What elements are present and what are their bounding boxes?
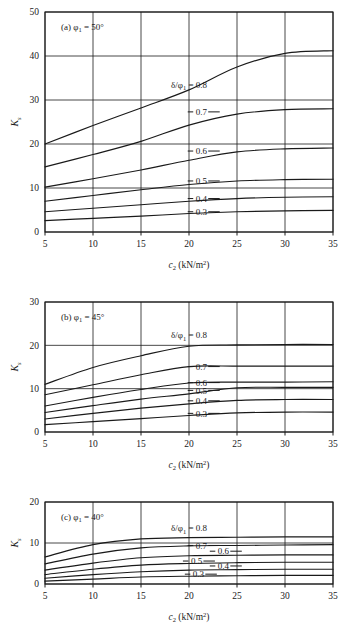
y-tick-label: 10 — [30, 538, 40, 548]
curve-label-0-8: δ/φ1 = 0.8 — [171, 523, 208, 534]
x-tick-label: 5 — [43, 239, 48, 249]
x-tick-label: 15 — [136, 591, 146, 601]
y-tick-label: 50 — [30, 7, 40, 17]
chart-svg-c: 010205101520253035Ksc2 (kN/m2)(c) φ1 = 4… — [0, 490, 345, 642]
panel-title-b: (b) φ1 = 45° — [61, 312, 105, 323]
figure-sheet: 010203040505101520253035Ksc2 (kN/m2)(a) … — [0, 0, 345, 642]
curve-label-0-8: δ/φ1 = 0.8 — [171, 330, 208, 341]
y-axis-title-c: Ks — [9, 538, 22, 549]
curve-label-0-4: 0.4 — [196, 194, 208, 204]
y-tick-label: 10 — [30, 384, 40, 394]
curve-labels-c: δ/φ1 = 0.80.70.60.50.40.3 — [171, 523, 242, 579]
x-tick-label: 25 — [232, 591, 242, 601]
x-tick-labels-c: 5101520253035 — [43, 584, 338, 601]
y-tick-label: 30 — [30, 297, 40, 307]
y-tick-labels-c: 01020 — [30, 497, 40, 589]
x-tick-labels-a: 5101520253035 — [43, 232, 338, 249]
curve-label-0-4: 0.4 — [196, 396, 208, 406]
chart-svg-b: 01020305101520253035Ksc2 (kN/m2)(b) φ1 =… — [0, 290, 345, 490]
y-axis-title-text: Ks — [9, 362, 22, 373]
y-tick-label: 40 — [30, 51, 40, 61]
y-tick-labels-a: 01020304050 — [30, 7, 40, 237]
x-axis-title-text: c2 (kN/m2) — [168, 611, 209, 624]
curve-label-0-3: 0.3 — [193, 569, 205, 579]
x-tick-label: 30 — [280, 439, 290, 449]
y-tick-label: 10 — [30, 183, 40, 193]
curve-label-0-4: 0.4 — [218, 561, 230, 571]
curve-label-0-5: 0.5 — [191, 556, 203, 566]
y-tick-label: 20 — [30, 341, 40, 351]
curve-label-0-8: δ/φ1 = 0.8 — [171, 80, 208, 91]
x-tick-label: 35 — [328, 239, 338, 249]
x-tick-label: 5 — [43, 439, 48, 449]
panel-b: 01020305101520253035Ksc2 (kN/m2)(b) φ1 =… — [0, 290, 345, 490]
y-axis-title-text: Ks — [9, 538, 22, 549]
y-tick-label: 0 — [34, 579, 39, 589]
x-tick-label: 20 — [184, 591, 194, 601]
x-axis-title-c: c2 (kN/m2) — [168, 611, 209, 624]
curve-label-0-5: 0.5 — [196, 176, 208, 186]
x-tick-label: 35 — [328, 591, 338, 601]
y-tick-label: 0 — [34, 427, 39, 437]
plot-area-b: 01020305101520253035Ksc2 (kN/m2)(b) φ1 =… — [0, 290, 345, 490]
y-axis-title-a: Ks — [9, 117, 22, 128]
curve-label-0-7: 0.7 — [196, 362, 208, 372]
x-tick-label: 10 — [88, 239, 98, 249]
x-tick-label: 15 — [136, 439, 146, 449]
x-tick-label: 25 — [232, 439, 242, 449]
x-tick-label: 10 — [88, 439, 98, 449]
plot-area-a: 010203040505101520253035Ksc2 (kN/m2)(a) … — [0, 0, 345, 290]
x-tick-label: 30 — [280, 591, 290, 601]
y-tick-label: 30 — [30, 95, 40, 105]
curve-label-0-3: 0.3 — [196, 207, 208, 217]
curve-label-0-7: 0.7 — [196, 107, 208, 117]
x-tick-label: 10 — [88, 591, 98, 601]
panel-c: 010205101520253035Ksc2 (kN/m2)(c) φ1 = 4… — [0, 490, 345, 642]
x-tick-label: 20 — [184, 439, 194, 449]
curve-label-0-6: 0.6 — [218, 546, 230, 556]
x-axis-title-b: c2 (kN/m2) — [168, 459, 209, 472]
panel-title-c: (c) φ1 = 40° — [61, 512, 104, 523]
panel-title-text: (c) φ1 = 40° — [61, 512, 104, 523]
x-tick-label: 20 — [184, 239, 194, 249]
x-axis-title-text: c2 (kN/m2) — [168, 459, 209, 472]
x-axis-title-a: c2 (kN/m2) — [168, 259, 209, 272]
panel-title-text: (b) φ1 = 45° — [61, 312, 105, 323]
y-axis-title-b: Ks — [9, 362, 22, 373]
y-tick-label: 20 — [30, 497, 40, 507]
y-axis-title-text: Ks — [9, 117, 22, 128]
curve-label-0-3: 0.3 — [196, 409, 208, 419]
panel-title-a: (a) φ1 = 50° — [61, 22, 104, 33]
x-tick-label: 25 — [232, 239, 242, 249]
y-tick-label: 20 — [30, 139, 40, 149]
x-tick-label: 35 — [328, 439, 338, 449]
x-tick-label: 15 — [136, 239, 146, 249]
x-tick-label: 30 — [280, 239, 290, 249]
panel-a: 010203040505101520253035Ksc2 (kN/m2)(a) … — [0, 0, 345, 290]
chart-svg-a: 010203040505101520253035Ksc2 (kN/m2)(a) … — [0, 0, 345, 290]
curve-label-0-5: 0.5 — [196, 386, 208, 396]
curve-label-0-7: 0.7 — [196, 541, 208, 551]
x-axis-title-text: c2 (kN/m2) — [168, 259, 209, 272]
x-tick-labels-b: 5101520253035 — [43, 432, 338, 449]
panel-title-text: (a) φ1 = 50° — [61, 22, 104, 33]
curve-label-0-6: 0.6 — [196, 146, 208, 156]
y-tick-label: 0 — [34, 227, 39, 237]
x-tick-label: 5 — [43, 591, 48, 601]
y-tick-labels-b: 0102030 — [30, 297, 40, 437]
plot-area-c: 010205101520253035Ksc2 (kN/m2)(c) φ1 = 4… — [0, 490, 345, 642]
